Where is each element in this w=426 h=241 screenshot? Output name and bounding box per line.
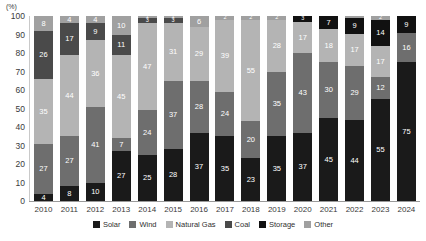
bar-segment[interactable]: 29 (345, 66, 364, 120)
bar-segment-label: 44 (350, 157, 358, 165)
bar-segment-label: 45 (117, 93, 125, 101)
bar-segment[interactable]: 23 (241, 158, 260, 201)
legend-item[interactable]: Wind (129, 221, 156, 229)
bar-segment[interactable]: 9 (345, 18, 364, 35)
bar-column[interactable]: 2392435 (215, 16, 234, 201)
stacked-bar-chart: (%) 1009080706050403020100 8263527441744… (0, 0, 426, 241)
bar-segment-label: 37 (169, 111, 177, 119)
bar-segment-label: 25 (143, 174, 151, 182)
bar-column[interactable]: 82635274 (34, 16, 53, 201)
bar-segment[interactable]: 6 (190, 16, 209, 27)
y-axis-tick: 40 (16, 122, 25, 132)
bar-segment[interactable]: 17 (345, 34, 364, 65)
bar-segment-label: 18 (324, 42, 332, 50)
bar-column[interactable]: 2552023 (241, 16, 260, 201)
bar-segment[interactable]: 24 (138, 110, 157, 154)
bar-segment[interactable]: 30 (319, 62, 338, 118)
bar-segment[interactable]: 7 (319, 16, 338, 29)
bar-segment[interactable]: 36 (86, 40, 105, 107)
bar-segment[interactable]: 27 (60, 136, 79, 186)
bar-segment[interactable]: 29 (190, 27, 209, 81)
bar-column[interactable]: 49364110 (86, 16, 105, 201)
bar-segment[interactable]: 44 (60, 55, 79, 136)
y-axis-tick: 50 (16, 104, 25, 114)
bar-column[interactable]: 101145727 (112, 16, 131, 201)
bar-column[interactable]: 13472425 (138, 16, 157, 201)
y-axis-tick: 70 (16, 67, 25, 77)
bar-segment-label: 35 (221, 165, 229, 173)
bar-column[interactable]: 7183045 (319, 16, 338, 201)
bar-segment[interactable]: 24 (215, 92, 234, 136)
bar-segment[interactable]: 16 (397, 33, 416, 63)
bar-column[interactable]: 214171255 (371, 16, 390, 201)
bar-segment[interactable]: 35 (267, 136, 286, 201)
bar-segment[interactable]: 10 (86, 183, 105, 202)
bar-segment[interactable]: 35 (267, 72, 286, 137)
bar-segment[interactable]: 45 (319, 118, 338, 201)
bar-segment[interactable]: 28 (164, 149, 183, 201)
bar-column[interactable]: 91675 (397, 16, 416, 201)
bar-column[interactable]: 3174337 (293, 16, 312, 201)
y-axis-tick: 30 (16, 141, 25, 151)
bar-segment[interactable]: 4 (60, 16, 79, 23)
bar-segment[interactable]: 35 (34, 79, 53, 144)
bar-segment-label: 7 (327, 19, 331, 27)
bar-segment[interactable]: 7 (112, 138, 131, 151)
bar-column[interactable]: 13313728 (164, 16, 183, 201)
bar-segment-label: 37 (195, 163, 203, 171)
bar-segment[interactable]: 8 (60, 186, 79, 201)
bar-segment[interactable]: 27 (112, 151, 131, 201)
bar-segment[interactable]: 25 (138, 155, 157, 201)
bar-segment[interactable]: 11 (112, 35, 131, 55)
bar-segment[interactable]: 17 (60, 23, 79, 54)
bar-segment-label: 37 (299, 163, 307, 171)
bar-segment-label: 6 (197, 18, 201, 26)
legend-item[interactable]: Natural Gas (166, 221, 216, 229)
bar-segment[interactable]: 28 (267, 20, 286, 72)
x-axis-tick-label: 2013 (112, 203, 131, 219)
x-axis-line (29, 201, 420, 202)
bar-segment[interactable]: 20 (241, 121, 260, 158)
bar-segment[interactable]: 4 (86, 16, 105, 23)
legend-swatch-icon (93, 221, 100, 228)
bar-segment-label: 16 (402, 44, 410, 52)
bar-segment[interactable]: 37 (293, 133, 312, 201)
bar-segment[interactable]: 8 (34, 16, 53, 31)
bar-segment[interactable]: 9 (397, 16, 416, 33)
legend-label: Coal (235, 221, 250, 229)
bar-segment[interactable]: 31 (164, 23, 183, 80)
bar-segment[interactable]: 17 (371, 46, 390, 77)
legend-item[interactable]: Coal (225, 221, 250, 229)
bar-segment[interactable]: 4 (34, 194, 53, 201)
bar-segment[interactable]: 39 (215, 20, 234, 92)
bar-segment-label: 27 (39, 165, 47, 173)
bar-column[interactable]: 6292837 (190, 16, 209, 201)
bar-segment[interactable]: 45 (112, 55, 131, 138)
bar-segment[interactable]: 17 (293, 22, 312, 53)
bar-segment[interactable]: 12 (371, 77, 390, 99)
bar-segment[interactable]: 47 (138, 23, 157, 110)
bar-segment[interactable]: 55 (241, 20, 260, 122)
bar-segment[interactable]: 10 (112, 16, 131, 35)
bar-column[interactable]: 2283535 (267, 16, 286, 201)
bar-segment[interactable]: 14 (371, 20, 390, 46)
legend-item[interactable]: Storage (259, 221, 295, 229)
legend-item[interactable]: Other (304, 221, 333, 229)
bar-column[interactable]: 41744278 (60, 16, 79, 201)
bar-segment[interactable]: 35 (215, 136, 234, 201)
bar-segment[interactable]: 43 (293, 53, 312, 133)
bar-segment[interactable]: 26 (34, 31, 53, 79)
bar-segment[interactable]: 37 (190, 133, 209, 201)
bar-segment[interactable]: 44 (345, 120, 364, 201)
bar-segment[interactable]: 75 (397, 62, 416, 201)
bar-segment[interactable]: 37 (164, 81, 183, 149)
bar-segment[interactable]: 27 (34, 144, 53, 194)
bar-segment-label: 9 (93, 28, 97, 36)
bar-segment[interactable]: 55 (371, 99, 390, 201)
bar-segment[interactable]: 28 (190, 81, 209, 133)
bar-segment[interactable]: 41 (86, 107, 105, 183)
legend-item[interactable]: Solar (93, 221, 121, 229)
bar-segment[interactable]: 9 (86, 23, 105, 40)
bar-segment[interactable]: 18 (319, 29, 338, 62)
bar-column[interactable]: 9172944 (345, 16, 364, 201)
